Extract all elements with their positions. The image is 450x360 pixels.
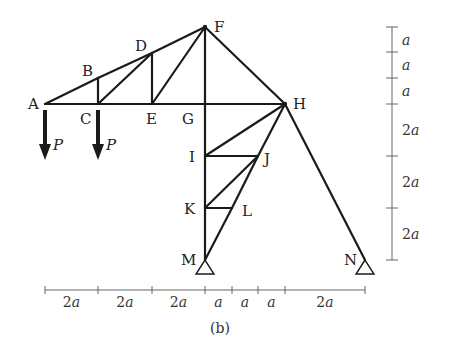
dimension-label: 2a <box>402 226 419 242</box>
member-AB <box>45 78 98 104</box>
member-CD <box>98 53 152 104</box>
node-label-B: B <box>82 62 93 80</box>
horizontal-dimension-line: 2a2a2aaaa2a <box>45 286 365 310</box>
member-FH <box>205 27 285 104</box>
joint-F <box>203 25 207 29</box>
dimension-label: 2a <box>116 294 133 310</box>
dimension-label: 2a <box>170 294 187 310</box>
node-label-K: K <box>184 200 196 218</box>
load-arrows: PP <box>39 110 117 160</box>
node-labels: ABCDEFGHIJKLMN <box>27 18 357 269</box>
node-label-D: D <box>135 37 147 55</box>
arrow-down-icon <box>92 144 104 160</box>
dimension-label: 2a <box>316 294 333 310</box>
node-label-E: E <box>146 110 157 128</box>
truss-diagram: PP ABCDEFGHIJKLMN 2a2a2aaaa2a aaa2a2a2a … <box>0 0 450 360</box>
node-label-I: I <box>189 148 195 166</box>
arrow-down-icon <box>39 144 51 160</box>
pin-support-icon <box>196 260 214 274</box>
dimension-label: a <box>214 294 222 310</box>
node-label-N: N <box>344 251 357 269</box>
node-label-M: M <box>181 251 196 269</box>
member-HN <box>285 104 365 260</box>
load-label-A: P <box>52 136 64 154</box>
node-label-H: H <box>293 95 306 113</box>
member-HI <box>205 104 285 156</box>
member-LM <box>205 208 232 260</box>
dimension-label: a <box>241 294 249 310</box>
figure-caption: (b) <box>210 320 230 336</box>
dimension-label: a <box>267 294 275 310</box>
load-label-C: P <box>105 136 117 154</box>
node-label-A: A <box>27 95 39 113</box>
dimension-label: a <box>402 32 410 48</box>
member-JK <box>205 156 258 208</box>
member-BD <box>98 53 152 78</box>
truss-members <box>45 25 365 260</box>
dimension-label: a <box>402 57 410 73</box>
node-label-L: L <box>242 202 252 220</box>
dimension-label: 2a <box>402 122 419 138</box>
joint-H <box>283 102 287 106</box>
dimension-label: 2a <box>402 174 419 190</box>
member-JL <box>232 156 258 208</box>
node-label-G: G <box>182 110 194 128</box>
node-label-C: C <box>80 110 91 128</box>
node-label-F: F <box>214 18 224 36</box>
vertical-dimension-line: aaa2a2a2a <box>386 27 419 260</box>
member-EF <box>152 27 205 104</box>
pin-support-icon <box>356 260 374 274</box>
node-label-J: J <box>262 150 270 168</box>
dimension-label: a <box>402 83 410 99</box>
dimension-label: 2a <box>63 294 80 310</box>
